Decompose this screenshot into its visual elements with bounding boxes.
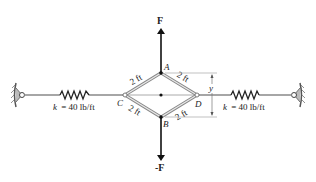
joint-c	[123, 93, 127, 97]
center-point	[159, 93, 162, 96]
left-spring-label: k = 40 lb/ft	[53, 102, 95, 112]
dimension-y-label: y	[208, 83, 213, 93]
right-spring	[231, 91, 259, 99]
point-b-label: B	[163, 119, 169, 129]
force-neg-f-label: -F	[155, 162, 164, 173]
joint-a	[159, 71, 163, 75]
left-spring	[60, 91, 89, 99]
force-f-label: F	[157, 15, 163, 26]
truss-spring-diagram: k = 40 lb/ft k = 40 lb/ft F -F A B C D 2…	[0, 0, 316, 182]
joint-d	[195, 93, 199, 97]
left-pin-support	[11, 83, 25, 107]
point-c-label: C	[117, 98, 124, 108]
point-a-label: A	[163, 62, 170, 72]
point-d-label: D	[194, 99, 202, 109]
right-spring-label: k = 40 lb/ft	[223, 102, 265, 112]
right-pin-support	[292, 83, 306, 107]
